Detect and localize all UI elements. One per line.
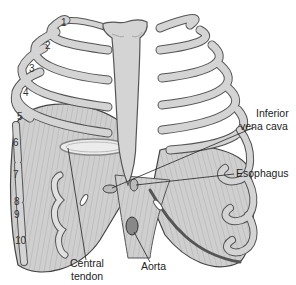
rib-number-4: 4: [23, 88, 29, 98]
label-central-tendon-line2: tendon: [71, 270, 103, 282]
label-inferior-vena-cava-line1: Inferior: [256, 107, 289, 119]
label-central-tendon-line1: Central: [70, 257, 104, 269]
label-aorta: Aorta: [141, 260, 166, 272]
rib-number-6: 6: [13, 138, 19, 148]
rib-number-8: 8: [14, 197, 20, 207]
rib-cage-diaphragm-diagram: 1 2 3 4 5 6 7 8 9 10 Inferior vena cava …: [0, 0, 296, 285]
rib-number-7: 7: [13, 170, 19, 180]
rib-number-5: 5: [17, 112, 23, 122]
aortic-opening: [126, 217, 138, 235]
rib-number-9: 9: [14, 210, 20, 220]
label-esophagus: Esophagus: [236, 167, 289, 179]
label-inferior-vena-cava-line2: vena cava: [240, 120, 288, 132]
rib-number-10: 10: [15, 236, 26, 246]
ivc-opening: [103, 185, 117, 193]
rib-number-1: 1: [61, 18, 67, 28]
rib-number-2: 2: [45, 41, 51, 51]
rib-number-3: 3: [29, 64, 35, 74]
